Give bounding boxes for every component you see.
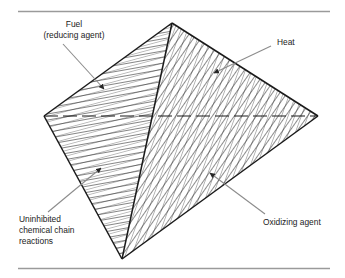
label-oxidizing-agent: Oxidizing agent [263, 217, 321, 227]
label-chain-reactions-line-3: reactions [19, 236, 53, 246]
label-fuel-line-1: Fuel [66, 19, 82, 29]
tetrahedron-svg: Fuel (reducing agent) Heat Uninhibited c… [0, 0, 345, 278]
label-chain-reactions-line-2: chemical chain [19, 225, 75, 235]
label-heat: Heat [277, 37, 295, 47]
label-fuel-line-2: (reducing agent) [44, 30, 105, 40]
fire-tetrahedron-figure: Fuel (reducing agent) Heat Uninhibited c… [0, 0, 345, 278]
label-heat-line-1: Heat [277, 37, 295, 47]
label-oxidizing-agent-line-1: Oxidizing agent [263, 217, 321, 227]
label-chain-reactions-line-1: Uninhibited [19, 214, 61, 224]
